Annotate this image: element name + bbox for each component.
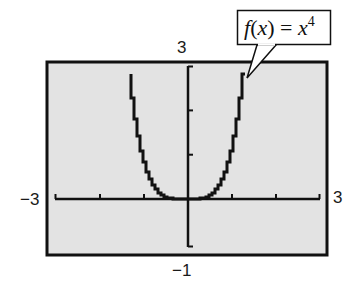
ymin-label: −1	[172, 262, 191, 279]
xmax-label: 3	[333, 189, 342, 206]
equals-sign: =	[275, 15, 298, 40]
function-label: f(x) = x4	[244, 17, 315, 39]
function-variable: x	[257, 15, 267, 40]
function-close-paren: )	[267, 15, 274, 40]
function-exponent: 4	[308, 14, 315, 29]
xmin-label: −3	[20, 191, 39, 208]
function-base: x	[298, 15, 308, 40]
graphing-calculator-figure: 3 −1 −3 3 f(x) = x4	[0, 0, 358, 291]
ymax-label: 3	[177, 39, 186, 56]
